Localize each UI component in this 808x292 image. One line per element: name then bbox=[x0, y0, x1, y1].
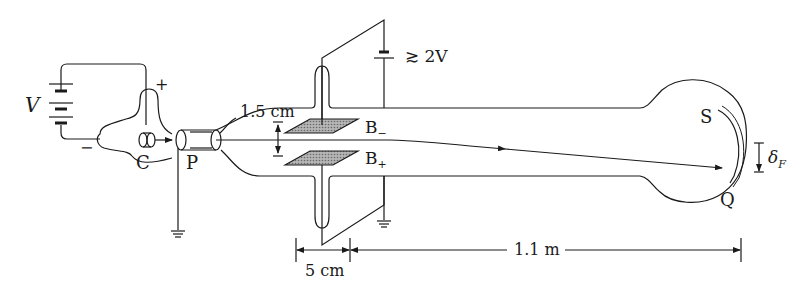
deflection-subscript: F bbox=[778, 158, 786, 171]
label-plus: + bbox=[155, 77, 168, 93]
wire-negative bbox=[61, 125, 100, 139]
thomson-tube-diagram: V + − C P 1.5 cm B− B+ ≳ 2V S Q δF 5 cm … bbox=[0, 0, 808, 292]
deflection-symbol: δ bbox=[768, 147, 778, 167]
plate-lower-sign: + bbox=[378, 158, 387, 171]
label-cathode: C bbox=[136, 154, 150, 172]
electron-beam bbox=[216, 140, 470, 146]
label-plate-lower: B+ bbox=[365, 150, 387, 170]
label-plate-upper: B− bbox=[365, 119, 387, 139]
label-plate-length: 5 cm bbox=[305, 263, 344, 279]
label-drift-length: 1.1 m bbox=[514, 242, 560, 258]
plate-lower bbox=[285, 151, 358, 165]
label-screen-q: Q bbox=[720, 191, 735, 209]
label-anode: P bbox=[186, 154, 198, 172]
label-screen-s: S bbox=[700, 108, 712, 126]
label-deflection: δF bbox=[768, 149, 786, 170]
plate-upper-letter: B bbox=[365, 117, 378, 137]
gun-envelope bbox=[97, 89, 172, 162]
plate-upper-sign: − bbox=[378, 127, 387, 140]
plate-lower-letter: B bbox=[365, 148, 378, 168]
label-plate-gap: 1.5 cm bbox=[240, 104, 295, 120]
battery-circuit bbox=[49, 64, 146, 139]
label-minus: − bbox=[80, 140, 93, 156]
ground-anode bbox=[171, 231, 185, 237]
label-plate-voltage: ≳ 2V bbox=[405, 48, 448, 65]
ground-plates bbox=[377, 221, 391, 227]
screen-scale bbox=[718, 110, 739, 183]
diagram-drawing bbox=[0, 0, 808, 292]
label-battery-voltage: V bbox=[25, 95, 39, 115]
